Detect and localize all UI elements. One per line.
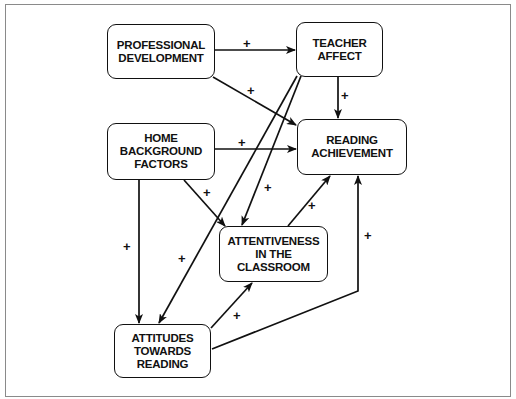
node-label: HOME BACKGROUND FACTORS <box>120 132 202 171</box>
node-attitudes: ATTITUDES TOWARDS READING <box>114 324 211 378</box>
edge-attitudes-att <box>211 283 252 328</box>
sign-hb-ra: + <box>238 136 246 149</box>
node-reading-achievement: READING ACHIEVEMENT <box>297 119 407 175</box>
node-label: READING ACHIEVEMENT <box>311 134 393 160</box>
node-label: ATTENTIVENESS IN THE CLASSROOM <box>228 235 320 274</box>
sign-att-ra: + <box>308 199 316 212</box>
node-attentiveness: ATTENTIVENESS IN THE CLASSROOM <box>219 226 328 282</box>
node-label: PROFESSIONAL DEVELOPMENT <box>117 39 205 65</box>
sign-pd-ta: + <box>243 37 251 50</box>
sign-attitudes-att: + <box>233 309 241 322</box>
sign-pd-ra: + <box>247 84 255 97</box>
node-teacher-affect: TEACHER AFFECT <box>296 22 383 77</box>
sign-ta-att: + <box>264 181 272 194</box>
node-professional-development: PROFESSIONAL DEVELOPMENT <box>107 24 215 79</box>
node-home-background: HOME BACKGROUND FACTORS <box>107 123 215 180</box>
edge-ta-attitudes <box>159 76 297 323</box>
sign-hb-attitudes: + <box>123 240 131 253</box>
sign-ta-ra: + <box>341 89 349 102</box>
sign-ta-attitudes: + <box>178 252 186 265</box>
sign-hb-att: + <box>203 186 211 199</box>
node-label: TEACHER AFFECT <box>312 37 366 63</box>
sign-attitudes-ra: + <box>364 229 372 242</box>
diagram-arrows <box>0 0 516 399</box>
node-label: ATTITUDES TOWARDS READING <box>132 332 194 371</box>
